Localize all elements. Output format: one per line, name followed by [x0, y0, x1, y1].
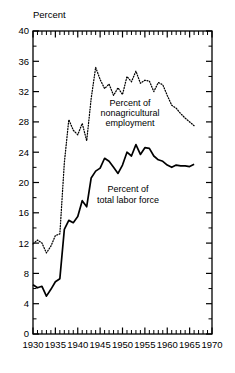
y-tick-label-28: 28 [18, 116, 29, 127]
series-0-label-line-0: Percent of [109, 98, 151, 108]
x-tick-label-1945: 1945 [90, 339, 111, 350]
y-tick-label-32: 32 [18, 86, 29, 97]
x-axis-major-ticks [33, 31, 212, 334]
y-axis-title: Percent [33, 9, 66, 20]
x-tick-label-1950: 1950 [112, 339, 133, 350]
series-nonagricultural-employment-label: Percent of nonagricultural employment [100, 98, 159, 128]
series-total-labor-force-line [33, 145, 194, 297]
x-tick-label-1960: 1960 [157, 339, 178, 350]
plot-border [33, 31, 212, 334]
y-tick-label-24: 24 [18, 147, 29, 158]
series-0-label-line-1: nonagricultural [100, 108, 159, 118]
series-nonagricultural-employment-line [33, 67, 194, 253]
x-axis-tick-labels: 193019351940194519501955196019651970 [22, 339, 222, 350]
chart-container: Percent 0481216202428323640 193019351940… [0, 0, 235, 373]
y-tick-label-40: 40 [18, 25, 29, 36]
y-tick-label-16: 16 [18, 207, 29, 218]
series-1-label-line-0: Percent of [107, 184, 149, 194]
plot-frame [33, 31, 212, 334]
y-tick-label-0: 0 [24, 328, 29, 339]
y-axis-tick-labels: 0481216202428323640 [18, 25, 29, 339]
series-total-labor-force-label: Percent of total labor force [97, 184, 159, 205]
x-tick-label-1965: 1965 [179, 339, 200, 350]
series-0-label-line-2: employment [105, 118, 155, 128]
x-tick-label-1940: 1940 [67, 339, 88, 350]
y-tick-label-36: 36 [18, 56, 29, 67]
y-tick-label-12: 12 [18, 238, 29, 249]
y-axis-major-ticks [33, 31, 212, 334]
y-tick-label-4: 4 [24, 298, 29, 309]
y-tick-label-8: 8 [24, 268, 29, 279]
x-tick-label-1930: 1930 [22, 339, 43, 350]
y-tick-label-20: 20 [18, 177, 29, 188]
x-tick-label-1935: 1935 [45, 339, 66, 350]
series-1-label-line-1: total labor force [97, 195, 159, 205]
x-tick-label-1970: 1970 [201, 339, 222, 350]
x-tick-label-1955: 1955 [134, 339, 155, 350]
union-membership-line-chart: Percent 0481216202428323640 193019351940… [0, 0, 235, 373]
